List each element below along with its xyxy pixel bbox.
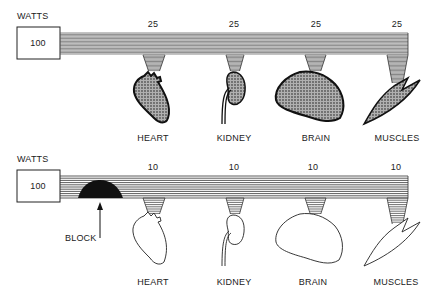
heart-watts: 10 [148, 162, 158, 172]
brain-label: BRAIN [299, 277, 328, 287]
tap-brain [305, 198, 326, 214]
diagram-canvas [0, 0, 436, 305]
panel-blocked [17, 170, 420, 266]
source-value: 100 [30, 181, 46, 191]
heart-watts: 25 [148, 19, 158, 29]
tap-brain [305, 55, 326, 71]
heart-label: HEART [137, 277, 168, 287]
muscles-watts: 25 [392, 19, 402, 29]
kidney-label: KIDNEY [217, 133, 252, 143]
block-label: BLOCK [65, 233, 97, 243]
kidney-label: KIDNEY [217, 277, 252, 287]
brain-watts: 10 [308, 162, 318, 172]
muscles-watts: 10 [391, 162, 401, 172]
brain-icon [276, 72, 344, 122]
tap-kidney [226, 55, 244, 71]
units-label: WATTS [17, 154, 49, 164]
heart-icon [134, 72, 169, 123]
tap-kidney [226, 198, 244, 214]
tap-muscles [387, 55, 408, 83]
brain-watts: 25 [311, 19, 321, 29]
source-value: 100 [30, 38, 46, 48]
muscles-icon [364, 218, 420, 266]
tap-heart [143, 55, 165, 71]
kidney-watts: 25 [229, 19, 239, 29]
brain-icon [276, 214, 343, 264]
kidney-icon [227, 215, 244, 245]
block-arrow [97, 202, 103, 238]
muscles-label: MUSCLES [374, 277, 419, 287]
heart-icon [133, 212, 167, 264]
heart-label: HEART [137, 133, 168, 143]
kidney-icon [227, 72, 245, 104]
muscles-label: MUSCLES [375, 133, 420, 143]
panel-normal [17, 27, 420, 124]
muscles-icon [364, 78, 420, 124]
brain-label: BRAIN [302, 133, 331, 143]
units-label: WATTS [17, 11, 49, 21]
kidney-watts: 10 [229, 162, 239, 172]
power-bus [60, 33, 408, 55]
tap-heart [143, 198, 165, 214]
